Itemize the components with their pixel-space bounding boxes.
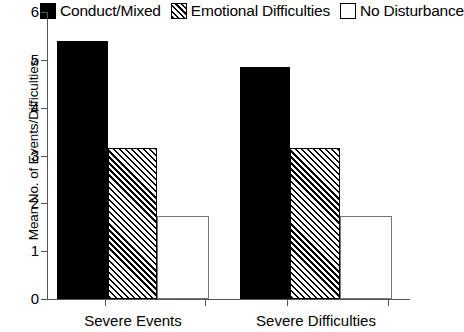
x-axis-tick <box>105 300 106 306</box>
bars-layer <box>47 12 410 299</box>
y-axis-tick-label: 1 <box>13 243 39 258</box>
y-axis-tick-label: 5 <box>13 52 39 67</box>
y-axis-tick-label: 3 <box>13 148 39 163</box>
y-axis-tick-label: 2 <box>13 195 39 210</box>
x-axis-tick <box>287 300 288 306</box>
x-axis-category-label: Severe Events <box>84 312 182 329</box>
plot-area: Mean No. of Events/Difficulties 0123456 … <box>47 12 410 299</box>
x-axis-line <box>47 299 410 300</box>
bar-conduct-mixed-group-2 <box>240 67 290 299</box>
x-axis-category-label: Severe Difficulties <box>256 312 376 329</box>
y-axis-tick <box>41 299 47 300</box>
y-axis-tick-label: 4 <box>13 100 39 115</box>
bar-conduct-mixed-group-1 <box>57 41 108 299</box>
y-axis-tick-label: 0 <box>13 291 39 306</box>
x-axis-tick <box>388 300 389 306</box>
bar-no-disturbance-group-1 <box>157 216 209 299</box>
bar-emotional-difficulties-group-1 <box>108 148 157 299</box>
bar-emotional-difficulties-group-2 <box>290 148 340 299</box>
y-axis-tick-label: 6 <box>13 4 39 19</box>
x-axis-tick <box>205 300 206 306</box>
bar-no-disturbance-group-2 <box>340 216 392 299</box>
